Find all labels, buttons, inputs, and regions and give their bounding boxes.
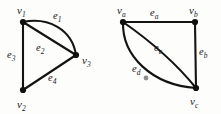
- vertex-v1-label: v1: [17, 4, 26, 19]
- edge-eb-label: eb: [199, 46, 208, 60]
- vertex-vc-label: vc: [190, 95, 199, 110]
- vertex-va-label: va: [117, 4, 126, 19]
- edge-e1-label: e1: [53, 10, 61, 24]
- edge-ea-label: ea: [150, 7, 159, 21]
- edge-e3-label: e3: [7, 49, 16, 63]
- vertex-v3-dot: [73, 52, 79, 58]
- vertex-v2-label: v2: [17, 98, 26, 113]
- ink-speck: [144, 76, 149, 81]
- edge-e4-label: e4: [48, 72, 57, 86]
- vertex-vb-label: vb: [189, 4, 198, 19]
- vertex-v3-label: v3: [82, 54, 91, 69]
- figure-canvas: v1 v2 v3 e1 e2 e3 e4 v: [0, 0, 221, 114]
- graph-figure-svg: v1 v2 v3 e1 e2 e3 e4 v: [0, 0, 221, 114]
- vertex-vc-dot: [193, 85, 199, 91]
- right-graph: va vb vc ea eb ec ed: [117, 4, 208, 110]
- edge-eb-line: [195, 22, 196, 88]
- edge-ec-label: ec: [154, 42, 163, 56]
- vertex-va-dot: [120, 19, 126, 25]
- edge-ed-label: ed: [132, 63, 141, 77]
- vertex-v1-dot: [20, 19, 26, 25]
- left-graph: v1 v2 v3 e1 e2 e3 e4: [7, 4, 91, 113]
- edge-e2-line: [23, 22, 76, 55]
- edge-e2-label: e2: [36, 42, 45, 56]
- vertex-vb-dot: [192, 19, 198, 25]
- vertex-v2-dot: [20, 87, 26, 93]
